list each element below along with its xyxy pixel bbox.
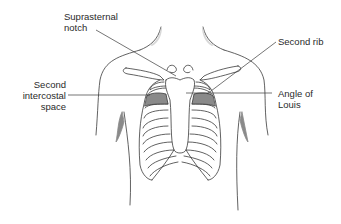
leader-suprasternal-notch bbox=[96, 30, 176, 76]
anatomy-diagram: Suprasternal notch Second rib Second int… bbox=[0, 0, 341, 224]
right-shoulder-outline bbox=[224, 50, 268, 135]
label-suprasternal-notch: Suprasternal notch bbox=[64, 11, 118, 33]
chest-illustration bbox=[0, 0, 341, 224]
left-arm-shade bbox=[116, 112, 124, 142]
left-shoulder-outline bbox=[96, 50, 140, 135]
right-torso-outline bbox=[237, 112, 240, 210]
label-angle-of-louis: Angle of Louis bbox=[278, 88, 313, 110]
leader-second-rib bbox=[207, 42, 276, 94]
right-intercostal-shading bbox=[192, 93, 215, 106]
left-torso-outline bbox=[124, 112, 131, 205]
label-second-intercostal-space: Second intercostal space bbox=[23, 79, 66, 112]
label-second-rib: Second rib bbox=[278, 36, 323, 47]
right-arm-shade bbox=[240, 112, 248, 142]
